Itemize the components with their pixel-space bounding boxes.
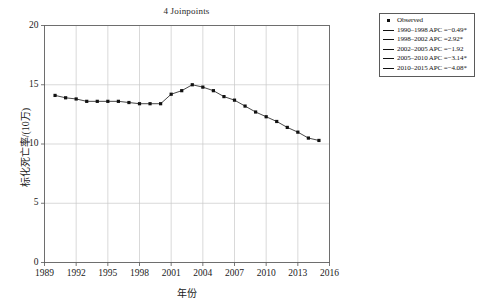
legend-label: Observed <box>397 16 423 25</box>
legend-label: 2010–2015 APC =−4.08* <box>397 64 467 73</box>
data-point-marker <box>233 99 236 102</box>
data-point-marker <box>148 102 151 105</box>
data-point-marker <box>201 86 204 89</box>
legend-entry: 2002–2005 APC =−1.92 <box>382 45 472 54</box>
legend-marker-icon <box>382 16 395 25</box>
data-point-marker <box>265 115 268 118</box>
legend-line-icon <box>382 54 395 63</box>
data-point-marker <box>307 136 310 139</box>
legend-entry: 1998–2002 APC =2.92* <box>382 35 472 44</box>
data-point-marker <box>138 102 141 105</box>
data-point-marker <box>75 97 78 100</box>
legend-line-icon <box>382 35 395 44</box>
data-point-marker <box>191 83 194 86</box>
trend-segment <box>140 91 182 104</box>
x-tick-label: 1995 <box>91 268 125 278</box>
data-point-marker <box>85 100 88 103</box>
legend-label: 2002–2005 APC =−1.92 <box>397 45 463 54</box>
legend-entry: 2005–2010 APC =−3.14* <box>382 54 472 63</box>
series-markers <box>53 83 320 142</box>
data-point-marker <box>286 126 289 129</box>
x-tick-label: 1992 <box>59 268 93 278</box>
data-point-marker <box>254 110 257 113</box>
data-point-marker <box>222 95 225 98</box>
data-point-marker <box>180 89 183 92</box>
data-point-marker <box>53 94 56 97</box>
legend-label: 1990–1998 APC =−0.49* <box>397 26 467 35</box>
chart-legend: Observed1990–1998 APC =−0.49*1998–2002 A… <box>379 13 475 77</box>
y-axis-title: 标化死亡率/(10万) <box>17 68 32 228</box>
trend-segment <box>182 85 214 91</box>
x-tick-label: 1989 <box>28 268 62 278</box>
data-point-marker <box>317 139 320 142</box>
legend-label: 2005–2010 APC =−3.14* <box>397 54 467 63</box>
data-point-marker <box>127 101 130 104</box>
axis-ticks <box>41 26 330 267</box>
chart-figure: 4 Joinpoints 05101520 198919921995199820… <box>0 0 477 306</box>
series-trend-lines <box>55 85 319 141</box>
data-point-marker <box>170 93 173 96</box>
trend-segment <box>213 91 266 117</box>
legend-line-icon <box>382 45 395 54</box>
x-axis-title: 年份 <box>44 285 329 300</box>
x-tick-label: 2007 <box>218 268 252 278</box>
x-tick-label: 2004 <box>186 268 220 278</box>
data-point-marker <box>106 100 109 103</box>
x-tick-label: 2016 <box>313 268 347 278</box>
legend-line-icon <box>382 26 395 35</box>
data-point-marker <box>96 100 99 103</box>
data-point-marker <box>243 104 246 107</box>
x-tick-label: 2001 <box>154 268 188 278</box>
trend-segment <box>266 117 319 141</box>
x-tick-label: 1998 <box>123 268 157 278</box>
legend-entry: 1990–1998 APC =−0.49* <box>382 26 472 35</box>
y-tick-label: 20 <box>17 20 39 30</box>
data-point-marker <box>64 96 67 99</box>
legend-entry: 2010–2015 APC =−4.08* <box>382 64 472 73</box>
data-point-marker <box>296 131 299 134</box>
x-tick-label: 2010 <box>249 268 283 278</box>
data-point-marker <box>275 120 278 123</box>
gridlines <box>45 26 330 263</box>
x-tick-label: 2013 <box>281 268 315 278</box>
legend-entry: Observed <box>382 16 472 25</box>
legend-line-icon <box>382 64 395 73</box>
data-point-marker <box>212 89 215 92</box>
data-point-marker <box>159 102 162 105</box>
legend-label: 1998–2002 APC =2.92* <box>397 35 463 44</box>
y-tick-label: 0 <box>17 257 39 267</box>
data-point-marker <box>117 100 120 103</box>
